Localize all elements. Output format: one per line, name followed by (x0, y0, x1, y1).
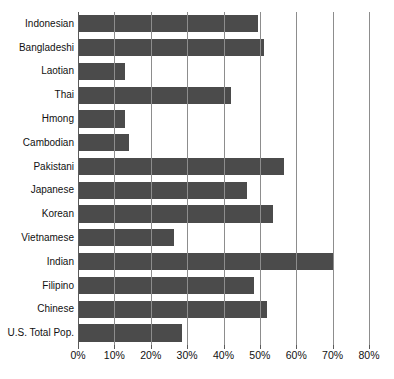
bar (78, 301, 267, 318)
bar (78, 205, 273, 222)
bar (78, 158, 284, 175)
category-label: Chinese (0, 303, 74, 314)
category-label: Hmong (0, 113, 74, 124)
plot-area (78, 12, 369, 345)
gridline-50pct (260, 12, 261, 345)
bar (78, 182, 247, 199)
gridline-20pct (151, 12, 152, 345)
category-label: Pakistani (0, 161, 74, 172)
gridline-60pct (296, 12, 297, 345)
clipped-title-fragment (4, 0, 334, 3)
x-tick-label: 20% (140, 349, 161, 362)
bar (78, 63, 125, 80)
bar (78, 277, 254, 294)
gridline-40pct (224, 12, 225, 345)
x-axis-tick-labels: 0%10%20%30%40%50%60%70%80% (0, 349, 394, 365)
category-label: Laotian (0, 65, 74, 76)
x-tick-label: 30% (177, 349, 198, 362)
category-axis-labels: IndonesianBangladeshiLaotianThaiHmongCam… (0, 12, 74, 345)
x-tick-label: 40% (213, 349, 234, 362)
category-label: Thai (0, 89, 74, 100)
bar (78, 134, 129, 151)
bar-chart: IndonesianBangladeshiLaotianThaiHmongCam… (0, 0, 394, 379)
category-label: Indian (0, 256, 74, 267)
gridline-30pct (187, 12, 188, 345)
bar (78, 110, 125, 127)
x-tick-label: 50% (249, 349, 270, 362)
category-label: Japanese (0, 184, 74, 195)
category-label: Indonesian (0, 18, 74, 29)
gridline-10pct (114, 12, 115, 345)
category-label: Vietnamese (0, 232, 74, 243)
x-tick-label: 60% (286, 349, 307, 362)
category-label: Korean (0, 208, 74, 219)
gridline-0pct (78, 12, 79, 345)
bar (78, 229, 174, 246)
x-tick-label: 70% (322, 349, 343, 362)
bar (78, 253, 333, 270)
category-label: Bangladeshi (0, 42, 74, 53)
bar (78, 324, 182, 341)
category-label: Cambodian (0, 137, 74, 148)
x-tick-label: 80% (358, 349, 379, 362)
x-tick-label: 10% (104, 349, 125, 362)
x-tick-label: 0% (70, 349, 85, 362)
bar (78, 39, 264, 56)
category-label: U.S. Total Pop. (0, 327, 74, 338)
category-label: Filipino (0, 280, 74, 291)
bar (78, 87, 231, 104)
gridline-70pct (333, 12, 334, 345)
bar (78, 15, 258, 32)
gridline-80pct (369, 12, 370, 345)
